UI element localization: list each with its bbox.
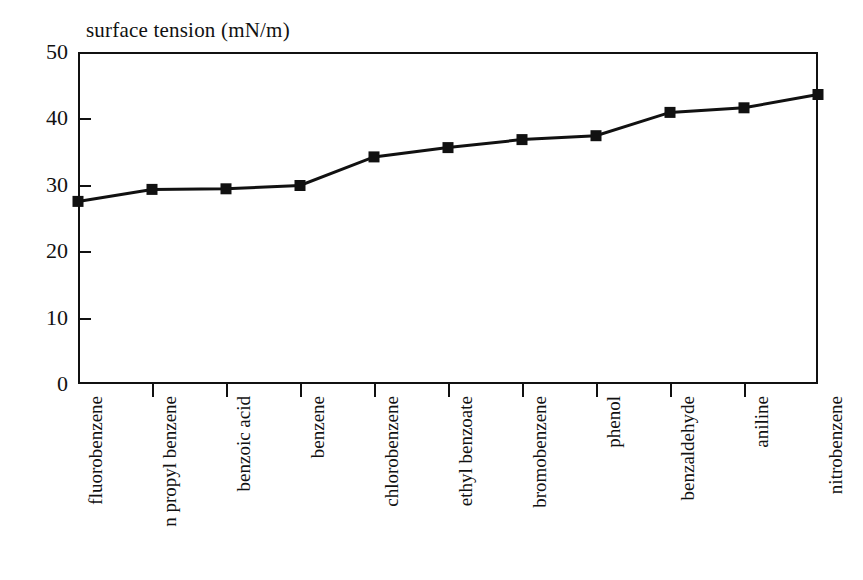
x-tick-mark bbox=[670, 384, 672, 397]
x-category-label: n propyl benzene bbox=[160, 396, 179, 527]
y-axis: 01020304050 bbox=[0, 0, 68, 580]
y-tick-label: 50 bbox=[46, 41, 68, 63]
chart-title: surface tension (mN/m) bbox=[86, 18, 290, 43]
x-category-label: chlorobenzene bbox=[382, 396, 401, 507]
x-category-label: nitrobenzene bbox=[826, 396, 845, 494]
x-category-label: phenol bbox=[604, 396, 623, 448]
x-tick-mark bbox=[448, 384, 450, 397]
x-tick-mark bbox=[522, 384, 524, 397]
x-tick-mark bbox=[596, 384, 598, 397]
x-tick-mark bbox=[226, 384, 228, 397]
x-tick-mark bbox=[374, 384, 376, 397]
x-tick-mark bbox=[744, 384, 746, 397]
y-tick-label: 20 bbox=[46, 240, 68, 262]
y-tick-label: 40 bbox=[46, 107, 68, 129]
plot-area bbox=[78, 52, 818, 384]
y-tick-label: 30 bbox=[46, 174, 68, 196]
x-category-label: bromobenzene bbox=[530, 396, 549, 508]
chart-figure: surface tension (mN/m) 01020304050 fluor… bbox=[0, 0, 863, 580]
x-tick-mark bbox=[152, 384, 154, 397]
x-tick-mark bbox=[300, 384, 302, 397]
y-tick-mark bbox=[78, 118, 91, 120]
x-category-label: fluorobenzene bbox=[86, 396, 105, 505]
y-tick-label: 0 bbox=[57, 373, 68, 395]
y-tick-mark bbox=[78, 185, 91, 187]
x-category-label: benzene bbox=[308, 396, 327, 458]
x-category-label: benzaldehyde bbox=[678, 396, 697, 500]
y-tick-mark bbox=[78, 251, 91, 253]
x-category-label: benzoic acid bbox=[234, 396, 253, 491]
x-category-label: aniline bbox=[752, 396, 771, 448]
x-category-label: ethyl benzoate bbox=[456, 396, 475, 506]
y-tick-label: 10 bbox=[46, 307, 68, 329]
y-tick-mark bbox=[78, 318, 91, 320]
